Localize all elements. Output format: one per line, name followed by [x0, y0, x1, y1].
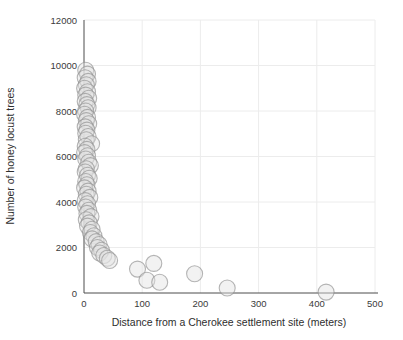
scatter-chart: 0100200300400500020004000600080001000012… — [0, 0, 403, 340]
x-axis-title: Distance from a Cherokee settlement site… — [112, 316, 347, 328]
data-point — [146, 255, 162, 271]
tick-labels: 0100200300400500020004000600080001000012… — [51, 15, 383, 310]
data-point — [102, 253, 118, 269]
chart-canvas: 0100200300400500020004000600080001000012… — [0, 0, 403, 340]
y-axis-title: Number of honey locust trees — [4, 87, 16, 224]
y-tick-label: 2000 — [56, 242, 77, 253]
data-point — [152, 274, 168, 290]
y-tick-label: 8000 — [56, 106, 77, 117]
y-tick-label: 10000 — [51, 60, 77, 71]
data-points — [77, 62, 335, 300]
data-point — [318, 284, 334, 300]
data-point — [219, 280, 235, 296]
y-tick-label: 12000 — [51, 15, 77, 26]
x-tick-label: 100 — [134, 298, 150, 309]
x-tick-label: 200 — [192, 298, 208, 309]
y-tick-label: 4000 — [56, 197, 77, 208]
x-tick-label: 300 — [251, 298, 267, 309]
x-tick-label: 500 — [367, 298, 383, 309]
data-point — [187, 266, 203, 282]
y-tick-label: 6000 — [56, 151, 77, 162]
y-tick-label: 0 — [72, 288, 77, 299]
x-tick-label: 0 — [81, 298, 86, 309]
gridlines — [84, 20, 375, 293]
